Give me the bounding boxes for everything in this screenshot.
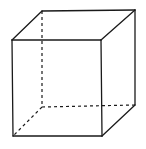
visible-edges: [12, 10, 135, 136]
hidden-edge-back-bottom-left-to-front-bottom-left: [13, 107, 42, 136]
hidden-edges: [13, 11, 135, 136]
visible-edge-back-top-right-to-front-top-right: [101, 10, 135, 40]
visible-edge-back-bottom-right-to-front-bottom-right: [102, 105, 135, 136]
cube-diagram: [0, 0, 146, 149]
visible-edge-front-top-left-to-back-top-left: [12, 11, 42, 40]
visible-edge-front-bottom-left-to-front-top-left: [12, 40, 13, 136]
visible-edge-front-top-right-to-front-bottom-right: [101, 40, 102, 136]
visible-edge-back-top-left-to-back-top-right: [42, 10, 135, 11]
hidden-edge-back-bottom-left-to-back-bottom-right: [42, 105, 135, 107]
